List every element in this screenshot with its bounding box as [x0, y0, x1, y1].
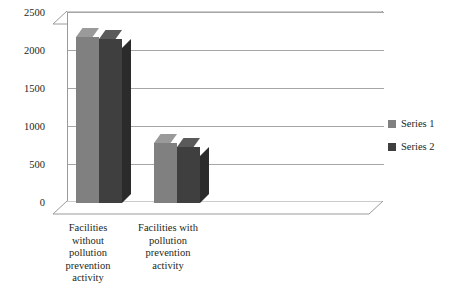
bar-top-face	[99, 30, 122, 39]
category-label-1: Facilities without pollution prevention …	[57, 222, 119, 285]
category-label-2-line-2: pollution	[128, 235, 208, 248]
ytick-label-2000: 2000	[1, 45, 45, 56]
bar-face	[76, 37, 99, 203]
bar-side-face	[122, 39, 131, 203]
legend-label-series-1: Series 1	[401, 118, 435, 129]
ytick-label-2500: 2500	[1, 7, 45, 18]
category-label-2-line-3: prevention	[128, 247, 208, 260]
category-label-1-line-3: pollution	[57, 247, 119, 260]
bar-face	[177, 147, 200, 203]
bar-series1-cat2[interactable]	[154, 143, 177, 203]
ytick-label-1500: 1500	[1, 83, 45, 94]
bar-series1-cat1[interactable]	[76, 37, 99, 203]
chart-floor	[53, 201, 383, 215]
category-label-1-line-4: prevention	[57, 260, 119, 273]
category-label-2-line-4: activity	[128, 260, 208, 273]
category-label-1-line-2: without	[57, 235, 119, 248]
bar-top-face	[76, 28, 99, 37]
category-label-2-line-1: Facilities with	[128, 222, 208, 235]
bar-top-face	[177, 138, 200, 147]
category-label-1-line-5: activity	[57, 272, 119, 285]
legend-item-series-2[interactable]: Series 2	[388, 141, 435, 152]
bar-group-facilities-with	[148, 13, 228, 203]
category-label-2: Facilities with pollution prevention act…	[128, 222, 208, 272]
legend: Series 1 Series 2	[388, 118, 435, 164]
bar-top-face	[154, 134, 177, 143]
bar-series2-cat1[interactable]	[99, 39, 122, 203]
bar-group-facilities-without	[70, 13, 150, 203]
bar-series2-cat2[interactable]	[177, 147, 200, 203]
ytick-label-0: 0	[1, 197, 45, 208]
bar-side-face	[200, 147, 209, 203]
plot-area: 0 500 1000 1500 2000 2500	[53, 12, 383, 212]
legend-label-series-2: Series 2	[401, 141, 435, 152]
ytick-label-500: 500	[1, 159, 45, 170]
bar-chart: 0 500 1000 1500 2000 2500	[0, 0, 453, 298]
legend-item-series-1[interactable]: Series 1	[388, 118, 435, 129]
legend-swatch-icon	[388, 143, 396, 151]
bar-face	[154, 143, 177, 203]
category-label-1-line-1: Facilities	[57, 222, 119, 235]
bar-face	[99, 39, 122, 203]
ytick-label-1000: 1000	[1, 121, 45, 132]
legend-swatch-icon	[388, 120, 396, 128]
